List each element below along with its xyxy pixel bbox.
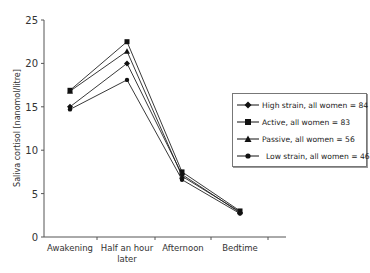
legend-label: Active, all women = 83 (262, 118, 350, 127)
diamond-marker-icon (237, 100, 259, 110)
legend-item-passive: Passive, all women = 56 (237, 132, 355, 146)
legend-label: High strain, all women = 84 (262, 101, 368, 110)
y-tick-label: 0 (32, 232, 38, 243)
circle-marker-icon (238, 211, 242, 215)
series-group (67, 39, 243, 216)
series-line (70, 63, 240, 212)
circle-marker-icon (125, 78, 129, 82)
legend-label: Passive, all women = 56 (262, 135, 355, 144)
y-tick-label: 15 (25, 102, 38, 113)
x-tick-label: Afternoon (162, 243, 203, 253)
circle-marker-icon (237, 151, 259, 161)
series-line (70, 42, 240, 211)
x-tick-label: Half an hour (101, 243, 154, 253)
y-axis-title: Saliva cortisol [nanomol/litre] (13, 69, 22, 187)
x-tick-label: Bedtime (222, 243, 258, 253)
x-tick-label: Awakening (47, 243, 93, 253)
legend-item-high-strain: High strain, all women = 84 (237, 98, 368, 112)
circle-marker-icon (180, 178, 184, 182)
x-tick-label: later (117, 254, 137, 264)
y-tick-label: 20 (25, 58, 38, 69)
legend-item-active: Active, all women = 83 (237, 115, 350, 129)
square-marker-icon (125, 39, 130, 44)
legend-item-low-strain: Low strain, all women = 46 (237, 149, 370, 163)
y-tick-label: 25 (25, 15, 38, 26)
triangle-marker-icon (124, 48, 130, 54)
triangle-marker-icon (237, 134, 259, 144)
square-marker-icon (237, 117, 259, 127)
y-tick-label: 10 (25, 145, 38, 156)
legend: High strain, all women = 84 Active, all … (232, 93, 367, 167)
y-tick-label: 5 (32, 189, 38, 200)
circle-marker-icon (68, 107, 72, 111)
legend-label: Low strain, all women = 46 (266, 152, 370, 161)
